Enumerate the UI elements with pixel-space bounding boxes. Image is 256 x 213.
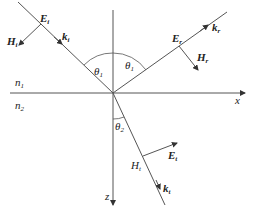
incident-k-label: ki [62,30,70,44]
reflected-h-label: Hr [196,51,209,65]
reflected-e-label: Er [171,32,182,46]
incident-k-arrow [54,37,62,44]
reflected-ray [113,12,227,93]
z-axis-label: z [104,190,110,202]
wave-interface-diagram: Ei Hi ki Er Hr kr Et Ht kt θ1 θ1 θ2 n1 n… [0,0,256,213]
reflected-k-label: kr [212,21,221,35]
transmitted-h-label: Ht [130,159,142,173]
incident-h-vector [19,24,41,45]
transmitted-k-label: kt [163,182,172,196]
theta2-label: θ2 [115,120,124,134]
incident-ray [18,2,113,93]
theta1-incident-arc [84,53,113,65]
n2-label: n2 [15,99,25,113]
theta2-arc [113,117,124,119]
incident-e-label: Ei [39,12,49,26]
x-axis-label: x [234,94,240,106]
theta1-reflected-label: θ1 [125,59,134,73]
transmitted-ray [113,93,165,205]
transmitted-e-label: Et [167,149,178,163]
incident-h-label: Hi [6,35,18,49]
reflected-k-arrow [200,25,208,31]
reflected-h-vector [179,46,198,70]
theta1-incident-label: θ1 [94,65,103,79]
n1-label: n1 [15,76,24,90]
